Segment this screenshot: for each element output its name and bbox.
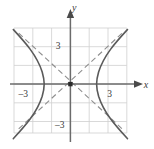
y-axis-tick-label-negative: –3 [54,120,65,130]
x-axis-arrowhead [134,80,143,87]
y-axis-tick-label-positive: 3 [56,41,61,51]
x-axis-tick-label-negative: –3 [18,89,29,99]
x-axis-label: x [143,79,149,90]
graph-canvas: 3 –3 –3 3 y x [0,0,154,149]
x-axis-tick-label-positive: 3 [107,89,112,99]
origin-dot [68,82,72,86]
hyperbola-graph-figure: 3 –3 –3 3 y x [0,0,154,149]
y-axis-label: y [71,2,77,13]
